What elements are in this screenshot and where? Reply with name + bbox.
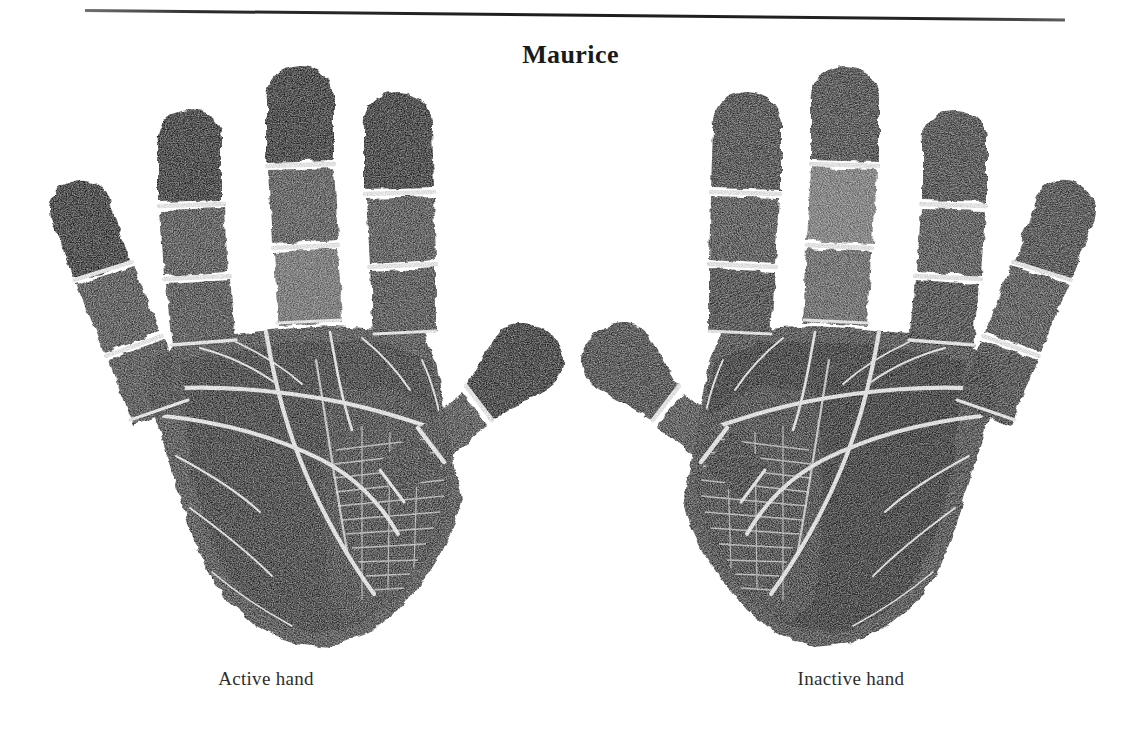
inactive-hand-caption: Inactive hand [798, 668, 905, 690]
active-hand-caption: Active hand [218, 668, 314, 690]
inactive-hand-svg [545, 60, 1115, 660]
inactive-hand-print [545, 60, 1115, 660]
active-hand-print [30, 60, 600, 660]
page-root: Maurice [0, 0, 1141, 730]
header-rule [85, 9, 1065, 21]
active-hand-svg [30, 60, 600, 660]
